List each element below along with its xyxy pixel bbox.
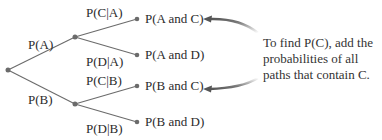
label-P-A: P(A)	[28, 38, 53, 52]
annotation-arrows	[203, 16, 258, 93]
node-B	[73, 102, 78, 107]
label-P-C-given-A: P(C|A)	[86, 6, 123, 20]
outcome-B-and-C: P(B and C)	[145, 79, 204, 93]
annotation-line-3: paths that contain C.	[263, 67, 382, 83]
arrowhead-bottom	[203, 86, 212, 93]
annotation-line-2: probabilities of all	[263, 51, 382, 67]
outcome-B-and-D: P(B and D)	[145, 115, 204, 129]
leaf-B-and-D	[135, 120, 140, 125]
branch-C-given-B	[75, 86, 137, 104]
branch-D-given-A	[75, 37, 137, 55]
label-P-C-given-B: P(C|B)	[86, 74, 122, 88]
arrow-to-A-and-C	[209, 19, 258, 33]
label-P-D-given-A: P(D|A)	[86, 55, 123, 69]
leaf-A-and-C	[135, 17, 140, 22]
outcome-A-and-C: P(A and C)	[145, 12, 204, 26]
leaf-A-and-D	[135, 53, 140, 58]
node-A	[73, 35, 78, 40]
branch-C-given-A	[75, 19, 137, 37]
annotation-note: To find P(C), add the probabilities of a…	[263, 35, 382, 83]
label-P-D-given-B: P(D|B)	[86, 122, 123, 136]
tree-nodes	[6, 17, 140, 125]
branch-D-given-B	[75, 104, 137, 122]
outcome-A-and-D: P(A and D)	[145, 48, 204, 62]
annotation-line-1: To find P(C), add the	[263, 35, 382, 51]
root-node	[6, 68, 11, 73]
leaf-B-and-C	[135, 84, 140, 89]
label-P-B: P(B)	[28, 93, 53, 107]
arrow-to-B-and-C	[209, 78, 258, 89]
arrowhead-top	[203, 16, 212, 23]
